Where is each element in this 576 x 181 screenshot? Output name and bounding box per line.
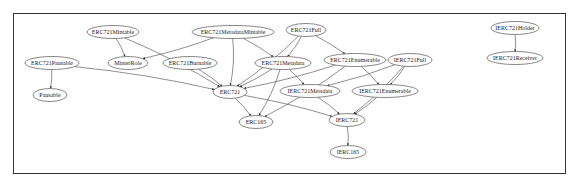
edge-ERC721MetadataMintable-to-ERC721Metadata xyxy=(243,38,273,57)
node-ERC721: ERC721 xyxy=(213,86,247,99)
edge-IERC721Full-to-IERC721Enumerable xyxy=(390,66,405,84)
node-Pausable: Pausable xyxy=(33,89,67,102)
node-label: ERC721Mintable xyxy=(92,29,135,35)
edge-ERC721MetadataMintable-to-ERC721 xyxy=(230,39,233,86)
node-label: ERC721MetadataMintable xyxy=(201,29,266,35)
node-IERC721Enumerable: IERC721Enumerable xyxy=(352,85,418,98)
node-label: IERC721 xyxy=(336,117,359,123)
node-IERC721: IERC721 xyxy=(329,114,365,127)
node-ERC721MetadataMintable: ERC721MetadataMintable xyxy=(192,26,274,39)
node-label: IERC165 xyxy=(337,149,360,155)
node-IERC721Receiver: IERC721Receiver xyxy=(487,52,543,65)
node-ERC721Enumerable: ERC721Enumerable xyxy=(324,54,386,67)
node-label: ERC721Pausable xyxy=(31,60,73,66)
edge-ERC721Full-to-ERC721Enumerable xyxy=(315,36,345,54)
edge-IERC721Enumerable-to-IERC721 xyxy=(355,97,377,114)
node-IERC165: IERC165 xyxy=(330,146,366,159)
node-label: ERC721 xyxy=(220,89,241,95)
node-label: ERC721Full xyxy=(291,27,322,33)
node-ERC721Pausable: ERC721Pausable xyxy=(25,57,79,70)
edge-ERC721Mintable-to-MinterRole xyxy=(116,39,125,57)
node-label: Pausable xyxy=(39,92,61,98)
node-MinterRole: MinterRole xyxy=(108,57,148,70)
edge-ERC721Metadata-to-ERC165 xyxy=(259,70,280,116)
node-label: MinterRole xyxy=(114,60,142,66)
edge-ERC721Burnable-to-ERC721 xyxy=(199,69,223,86)
edge-ERC721Metadata-to-IERC721Metadata xyxy=(289,69,304,84)
node-label: ERC721Metadata xyxy=(262,60,305,66)
node-label: ERC721Enumerable xyxy=(330,57,380,63)
edge-IERC721-to-IERC165 xyxy=(347,127,348,146)
node-IERC721Metadata: IERC721Metadata xyxy=(280,85,340,98)
node-ERC721Mintable: ERC721Mintable xyxy=(87,26,139,39)
node-label: IERC721Holder xyxy=(495,25,534,31)
node-ERC721Metadata: ERC721Metadata xyxy=(255,57,311,70)
node-label: IERC721Enumerable xyxy=(359,88,411,94)
edge-IERC721Full-to-IERC721Metadata xyxy=(327,65,395,86)
node-label: ERC165 xyxy=(246,119,267,125)
edge-ERC721MetadataMintable-to-MinterRole xyxy=(143,38,214,59)
node-ERC721Full: ERC721Full xyxy=(286,24,326,37)
edge-ERC721-to-IERC721 xyxy=(244,95,332,116)
edge-ERC721Full-to-ERC721Metadata xyxy=(288,36,302,56)
node-ERC165: ERC165 xyxy=(239,116,273,129)
edge-ERC721Metadata-to-ERC721 xyxy=(240,69,272,87)
nodes-layer: ERC721MintableERC721MetadataMintableERC7… xyxy=(25,22,543,159)
edge-ERC721Pausable-to-Pausable xyxy=(50,70,51,89)
node-IERC721Holder: IERC721Holder xyxy=(491,22,539,35)
node-label: IERC721Metadata xyxy=(288,88,333,94)
edge-ERC721Pausable-to-ERC721 xyxy=(74,67,214,90)
edge-IERC721Holder-to-IERC721Receiver xyxy=(515,35,516,52)
edge-ERC721-to-ERC165 xyxy=(235,98,250,116)
node-label: IERC721Full xyxy=(394,57,427,63)
edge-IERC721Metadata-to-IERC721 xyxy=(318,97,340,114)
node-IERC721Full: IERC721Full xyxy=(388,54,432,67)
node-label: IERC721Receiver xyxy=(493,55,537,61)
node-label: ERC721Burnable xyxy=(169,60,212,66)
inheritance-graph: ERC721MintableERC721MetadataMintableERC7… xyxy=(0,0,576,181)
node-ERC721Burnable: ERC721Burnable xyxy=(163,57,217,70)
